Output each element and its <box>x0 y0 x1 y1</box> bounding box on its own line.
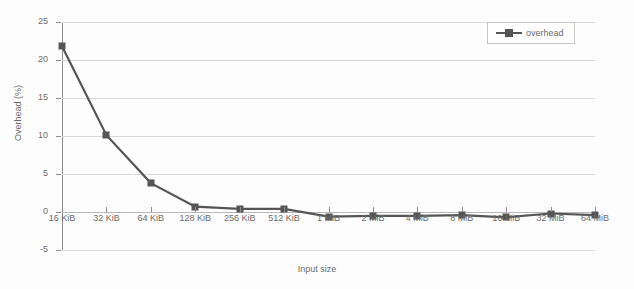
x-tick-label-32-KiB: 32 KiB <box>93 213 120 223</box>
legend-label-overhead: overhead <box>526 28 564 38</box>
y-tick-mark-20 <box>56 60 61 61</box>
y-tick-label-10: 10 <box>38 131 48 140</box>
x-tick-mark-256-KiB <box>240 207 241 212</box>
y-tick-mark-10 <box>56 136 61 137</box>
x-tick-mark-64-KiB <box>151 207 152 212</box>
data-point-32-KiB <box>103 132 110 139</box>
y-axis-tick-layer: 2520151050-5 <box>0 22 56 250</box>
x-tick-label-512-KiB: 512 KiB <box>268 213 300 223</box>
x-tick-label-2-MiB: 2 MiB <box>361 213 384 223</box>
x-tick-mark-16-KiB <box>62 207 63 212</box>
data-point-16-KiB <box>59 43 66 50</box>
y-axis-title: Overhead (%) <box>13 53 23 173</box>
x-tick-mark-4-MiB <box>417 207 418 212</box>
y-tick-mark-5 <box>56 174 61 175</box>
gridline--5 <box>62 250 595 251</box>
y-tick-label-5: 5 <box>43 169 48 178</box>
x-tick-mark-16-MiB <box>506 207 507 212</box>
x-tick-mark-2-MiB <box>373 207 374 212</box>
x-tick-mark-64-MiB <box>595 207 596 212</box>
x-axis-title: Input size <box>0 264 634 274</box>
data-point-64-KiB <box>147 180 154 187</box>
x-tick-label-32-MiB: 32 MiB <box>537 213 565 223</box>
x-tick-label-256-KiB: 256 KiB <box>224 213 256 223</box>
y-tick-mark--5 <box>56 250 61 251</box>
legend-marker-icon <box>496 29 522 37</box>
x-tick-label-16-KiB: 16 KiB <box>49 213 76 223</box>
x-tick-label-8-MiB: 8 MiB <box>450 213 473 223</box>
x-tick-mark-1-MiB <box>329 207 330 212</box>
x-tick-label-4-MiB: 4 MiB <box>406 213 429 223</box>
x-tick-mark-8-MiB <box>462 207 463 212</box>
y-tick-mark-25 <box>56 22 61 23</box>
x-tick-label-128-KiB: 128 KiB <box>179 213 211 223</box>
x-tick-label-16-MiB: 16 MiB <box>492 213 520 223</box>
x-tick-label-64-KiB: 64 KiB <box>138 213 165 223</box>
chart-legend: overhead <box>487 22 575 44</box>
x-tick-label-64-MiB: 64 MiB <box>581 213 609 223</box>
y-tick-mark-15 <box>56 98 61 99</box>
chart-container: 2520151050-5 Overhead (%) 16 KiB32 KiB64… <box>0 0 634 289</box>
y-tick-label-15: 15 <box>38 93 48 102</box>
y-tick-label-20: 20 <box>38 55 48 64</box>
x-axis-tick-layer: 16 KiB32 KiB64 KiB128 KiB256 KiB512 KiB1… <box>62 207 595 237</box>
y-tick-label-25: 25 <box>38 17 48 26</box>
x-tick-label-1-MiB: 1 MiB <box>317 213 340 223</box>
y-tick-label--5: -5 <box>40 245 48 254</box>
x-tick-mark-32-MiB <box>551 207 552 212</box>
y-tick-label-0: 0 <box>43 207 48 216</box>
x-tick-mark-128-KiB <box>195 207 196 212</box>
x-tick-mark-32-KiB <box>106 207 107 212</box>
x-tick-mark-512-KiB <box>284 207 285 212</box>
